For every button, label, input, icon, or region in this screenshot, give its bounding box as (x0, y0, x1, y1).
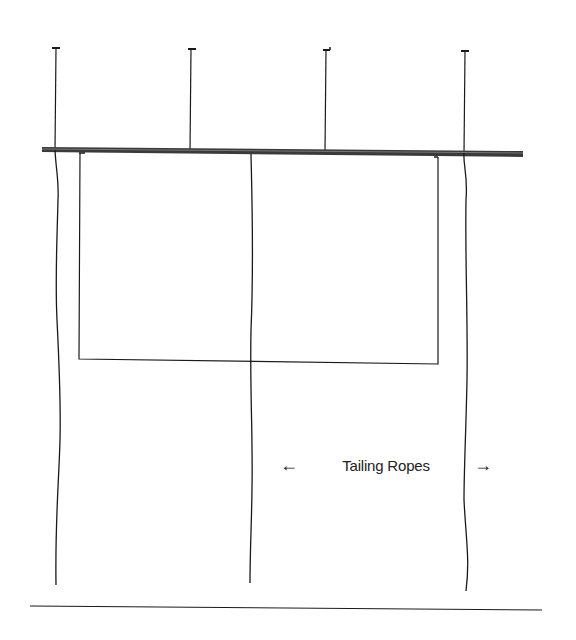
floor-line (30, 606, 542, 610)
lift-line-4 (461, 51, 469, 153)
right-arrow-icon: → (474, 456, 492, 474)
tailing-ropes (55, 150, 468, 591)
lift-line-3 (323, 47, 330, 152)
rigging-diagram (0, 0, 576, 640)
tailing-rope-left (55, 150, 60, 585)
tailing-rope-right (464, 153, 468, 591)
tailing-ropes-text: Tailing Ropes (342, 457, 429, 474)
lift-line-2 (188, 49, 196, 150)
left-arrow-icon: ← (280, 456, 298, 474)
lift-lines (52, 47, 469, 153)
lift-line-1 (52, 48, 60, 150)
tailing-ropes-label: ← Tailing Ropes → (280, 453, 492, 477)
tailing-rope-center (250, 154, 253, 583)
batten (42, 147, 523, 157)
drop-frame (79, 153, 438, 364)
